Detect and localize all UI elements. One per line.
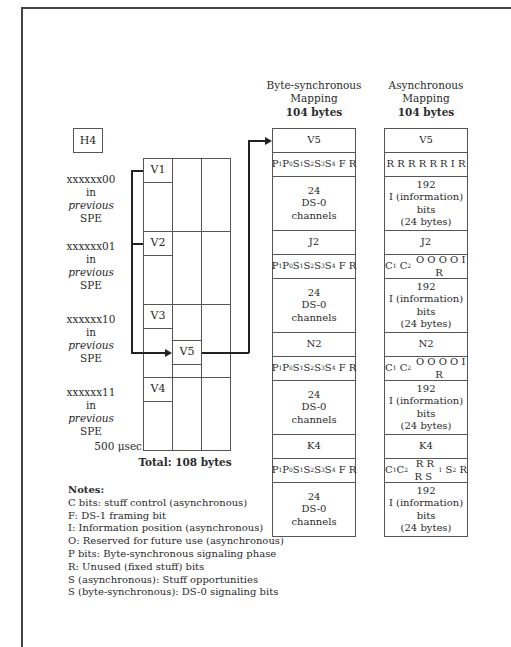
payload-unit: bits: [417, 306, 436, 319]
tag-in: in: [60, 253, 122, 266]
pointer-line: [131, 170, 143, 172]
pointer-line: [248, 140, 265, 142]
payload-type: I (information): [389, 191, 463, 204]
payload-count: 192: [416, 179, 435, 192]
multiframe-tag-v3: xxxxxx10 in previous SPE: [60, 313, 122, 365]
note-item: O: Reserved for future use (asynchronous…: [68, 535, 284, 548]
control-bits-cell: R R R R R R I R: [384, 152, 468, 177]
overhead-label: K4: [307, 440, 321, 453]
control-bits-label: R R R R R R I R: [387, 158, 466, 171]
duration-label: 500 μsec: [90, 440, 142, 453]
note-item: F: DS-1 framing bit: [68, 510, 284, 523]
h4-box: H4: [73, 128, 103, 153]
payload-bytes: (24 bytes): [401, 522, 452, 535]
multiframe-tag-v4: xxxxxx11 in previous SPE: [60, 386, 122, 438]
pointer-line: [131, 243, 143, 245]
tag-in: in: [60, 186, 122, 199]
overhead-cell: V5: [384, 128, 468, 153]
payload-type: DS-0: [302, 503, 327, 516]
payload-unit: channels: [291, 210, 336, 223]
signaling-bits-cell: P1P0S1S2S3S4 F R: [272, 458, 356, 483]
byte-sync-title: Byte-synchronous: [258, 79, 370, 92]
payload-count: 24: [308, 287, 321, 300]
payload-count: 24: [308, 185, 321, 198]
note-item: S (asynchronous): Stuff opportunities: [68, 574, 284, 587]
overhead-cell: K4: [384, 434, 468, 459]
note-item: R: Unused (fixed stuff) bits: [68, 561, 284, 574]
payload-unit: channels: [291, 312, 336, 325]
overhead-label: V5: [307, 134, 321, 147]
async-title: Asynchronous: [370, 79, 482, 92]
tag-code: xxxxxx11: [60, 386, 122, 399]
v4-label: V4: [151, 383, 166, 396]
payload-unit: bits: [417, 510, 436, 523]
note-item: P bits: Byte-synchronous signaling phase: [68, 548, 284, 561]
async-header: Asynchronous Mapping 104 bytes: [370, 79, 482, 119]
v2-cell: V2: [143, 231, 173, 256]
control-bits-cell: C1 C2 O O O O I R: [384, 254, 468, 279]
payload-type: I (information): [389, 293, 463, 306]
signaling-bits-cell: P1P0S1S2S3S4 F R: [272, 152, 356, 177]
payload-cell: 24 DS-0 channels: [272, 278, 356, 333]
payload-bytes: (24 bytes): [401, 420, 452, 433]
payload-cell: 192 I (information) bits (24 bytes): [384, 380, 468, 435]
tag-code: xxxxxx01: [60, 240, 122, 253]
overhead-cell: N2: [384, 332, 468, 357]
pointer-line: [248, 140, 250, 353]
v3-label: V3: [151, 310, 166, 323]
multiframe-tag-v2: xxxxxx01 in previous SPE: [60, 240, 122, 292]
byte-sync-size: 104 bytes: [258, 106, 370, 119]
tag-spe: SPE: [60, 279, 122, 292]
note-item: C bits: stuff control (asynchronous): [68, 497, 284, 510]
payload-count: 192: [416, 383, 435, 396]
control-bits-cell: C1C2 R R R S1 S2 R: [384, 458, 468, 483]
h4-label: H4: [80, 134, 97, 147]
v4-cell: V4: [143, 377, 173, 402]
v1-cell: V1: [143, 158, 173, 183]
payload-count: 192: [416, 281, 435, 294]
v5-label: V5: [180, 346, 195, 359]
tag-code: xxxxxx00: [60, 173, 122, 186]
pointer-line: [131, 352, 165, 354]
payload-unit: channels: [291, 414, 336, 427]
v3-cell: V3: [143, 304, 173, 329]
tag-previous: previous: [60, 412, 122, 425]
async-subtitle: Mapping: [370, 92, 482, 105]
signaling-bits-cell: P1P0S1S2S3S4 F R: [272, 356, 356, 381]
payload-cell: 192 I (information) bits (24 bytes): [384, 176, 468, 231]
payload-cell: 24 DS-0 channels: [272, 176, 356, 231]
byte-sync-subtitle: Mapping: [258, 92, 370, 105]
payload-type: I (information): [389, 395, 463, 408]
note-item: S (byte-synchronous): DS-0 signaling bit…: [68, 586, 284, 599]
tag-previous: previous: [60, 199, 122, 212]
v1-label: V1: [151, 164, 166, 177]
payload-cell: 24 DS-0 channels: [272, 482, 356, 537]
payload-type: DS-0: [302, 401, 327, 414]
arrow-right-icon: [265, 137, 272, 145]
overhead-label: J2: [421, 236, 431, 249]
payload-count: 24: [308, 389, 321, 402]
tag-code: xxxxxx10: [60, 313, 122, 326]
payload-type: DS-0: [302, 197, 327, 210]
payload-unit: bits: [417, 408, 436, 421]
overhead-label: N2: [306, 338, 321, 351]
pointer-line: [131, 170, 133, 353]
payload-bytes: (24 bytes): [401, 318, 452, 331]
overhead-label: J2: [309, 236, 319, 249]
tag-spe: SPE: [60, 212, 122, 225]
payload-unit: bits: [417, 204, 436, 217]
payload-unit: channels: [291, 516, 336, 529]
signaling-bits-cell: P1P0S1S2S3S4 F R: [272, 254, 356, 279]
pointer-line: [202, 352, 249, 354]
payload-type: I (information): [389, 497, 463, 510]
overhead-label: N2: [418, 338, 433, 351]
async-size: 104 bytes: [370, 106, 482, 119]
payload-cell: 192 I (information) bits (24 bytes): [384, 482, 468, 537]
tag-spe: SPE: [60, 425, 122, 438]
multiframe-tag-v1: xxxxxx00 in previous SPE: [60, 173, 122, 225]
tag-in: in: [60, 399, 122, 412]
overhead-cell: K4: [272, 434, 356, 459]
total-bytes-label: Total: 108 bytes: [130, 456, 240, 469]
payload-cell: 24 DS-0 channels: [272, 380, 356, 435]
tag-previous: previous: [60, 339, 122, 352]
